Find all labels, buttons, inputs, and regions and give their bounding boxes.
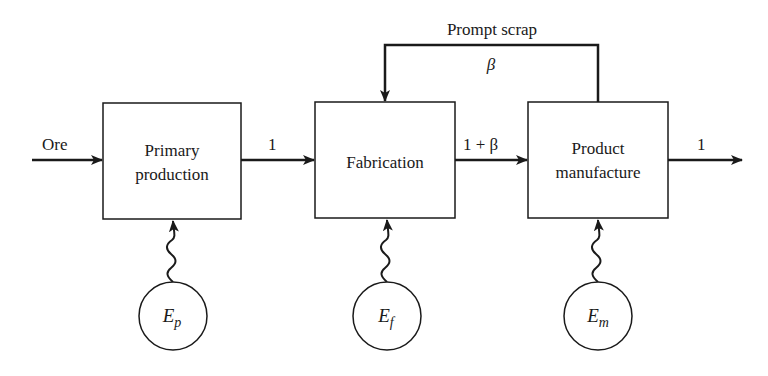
primary-production-box <box>103 103 241 219</box>
fabrication-label: Fabrication <box>346 153 424 172</box>
final-output-label: 1 <box>697 135 706 154</box>
prompt-scrap-label: Prompt scrap <box>447 20 537 39</box>
beta-label: β <box>486 55 496 74</box>
material-flow-diagram: Primary production Fabrication Product m… <box>0 0 768 376</box>
ore-label: Ore <box>42 135 67 154</box>
manufacture-label-1: Product <box>572 139 625 158</box>
energy-wave-primary-icon <box>167 221 176 282</box>
primary-label-2: production <box>135 165 209 184</box>
product-manufacture-box <box>528 102 668 218</box>
energy-wave-manufacture-icon <box>592 220 601 282</box>
fabrication-output-label: 1 + β <box>463 135 498 154</box>
energy-wave-fabrication-icon <box>381 220 390 282</box>
primary-output-label: 1 <box>268 135 277 154</box>
primary-label-1: Primary <box>145 141 200 160</box>
manufacture-label-2: manufacture <box>556 163 641 182</box>
